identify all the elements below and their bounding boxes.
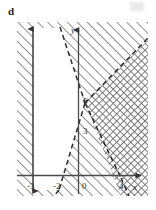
- x-tick-label-neg2: -2: [53, 181, 61, 191]
- scan-artifact: [130, 2, 144, 11]
- figure-container: d: [0, 0, 156, 210]
- plot-area: -3 -2 0 4 3 6 x y: [17, 22, 148, 196]
- x-tick-label-four: 4: [119, 181, 124, 191]
- graph-svg: -3 -2 0 4 3 6 x y: [17, 22, 148, 196]
- y-tick-label-six: 6: [83, 96, 88, 106]
- x-tick-label-neg3: -3: [27, 181, 35, 191]
- x-tick-label-zero: 0: [82, 181, 87, 191]
- y-axis-label: y: [70, 25, 75, 35]
- y-tick-label-three: 3: [83, 126, 88, 136]
- part-label: d: [8, 6, 14, 17]
- x-axis-label: x: [132, 182, 137, 192]
